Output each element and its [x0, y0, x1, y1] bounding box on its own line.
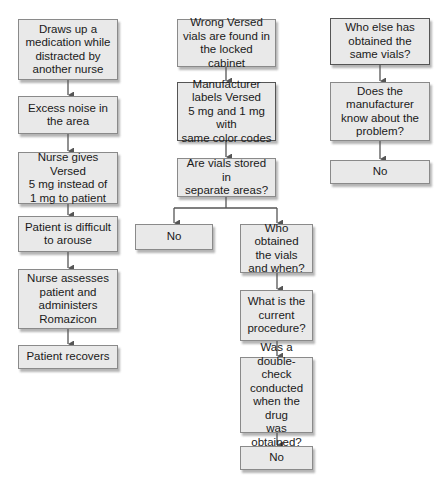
- node-draws-up-medication: Draws up a medication while distracted b…: [18, 19, 118, 80]
- node-who-obtained-vials: Who obtained the vials and when?: [240, 224, 313, 273]
- node-manufacturer-labels: Manufacturer labels Versed 5 mg and 1 mg…: [177, 82, 276, 141]
- node-no-separate-storage: No: [135, 224, 213, 250]
- node-nurse-assesses-patient: Nurse assesses patient and administers R…: [18, 269, 118, 329]
- node-who-else-obtained: Who else has obtained the same vials?: [330, 18, 430, 65]
- node-excess-noise: Excess noise in the area: [18, 96, 118, 134]
- node-manufacturer-know: Does the manufacturer know about the pro…: [330, 82, 430, 141]
- node-current-procedure: What is the current procedure?: [240, 290, 313, 341]
- node-double-check: Was a double-check conducted when the dr…: [240, 357, 313, 433]
- node-no-double-check: No: [240, 446, 313, 470]
- node-no-manufacturer: No: [330, 160, 430, 184]
- node-wrong-versed-vials: Wrong Versed vials are found in the lock…: [177, 19, 276, 67]
- node-vials-stored-separately: Are vials stored in separate areas?: [177, 158, 276, 197]
- node-patient-difficult-to-arouse: Patient is difficult to arouse: [18, 216, 118, 252]
- node-patient-recovers: Patient recovers: [18, 345, 118, 369]
- node-nurse-gives-versed: Nurse gives Versed 5 mg instead of 1 mg …: [18, 152, 118, 204]
